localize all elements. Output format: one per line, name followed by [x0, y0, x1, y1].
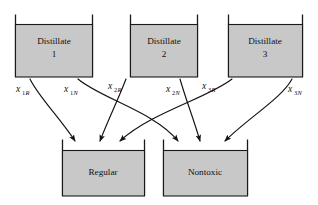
tank-distillate-3: Distillate 3: [229, 15, 303, 78]
distillate-blending-diagram: Distillate 1 Distillate 2 Distillate 3: [0, 0, 318, 205]
flow-label-3R-base: x: [201, 80, 207, 91]
diagram-canvas: Distillate 1 Distillate 2 Distillate 3: [0, 0, 318, 205]
flow-label-2N: x 2 N: [165, 83, 181, 96]
flow-label-2R-base: x: [107, 80, 113, 91]
flow-path-2R: [100, 79, 126, 141]
tank-nontoxic: Nontoxic: [164, 140, 248, 197]
flow-path-1N: [78, 79, 178, 141]
tank-nontoxic-label: Nontoxic: [188, 167, 222, 177]
tank-distillate-2-label-line2: 2: [162, 49, 167, 59]
flow-label-2R-sub-letter: R: [117, 86, 122, 93]
flow-label-3N-base: x: [287, 83, 293, 94]
tank-distillate-2: Distillate 2: [131, 15, 198, 78]
flow-label-2N-base: x: [165, 83, 171, 94]
tank-distillate-1: Distillate 1: [16, 15, 93, 78]
flow-label-1R-sub-letter: R: [25, 89, 30, 96]
flow-label-1R: x 1 R: [15, 83, 30, 96]
flow-label-3N: x 3 N: [287, 83, 303, 96]
tank-distillate-3-label-line2: 3: [263, 49, 268, 59]
flow-label-3R-sub-letter: R: [211, 86, 216, 93]
flow-path-3N: [225, 79, 292, 141]
flow-label-2N-sub-letter: N: [175, 89, 181, 96]
flow-label-1N-base: x: [63, 83, 69, 94]
flow-label-3R: x 3 R: [201, 80, 216, 93]
tank-regular: Regular: [63, 140, 145, 197]
flow-label-1R-base: x: [15, 83, 21, 94]
tank-distillate-3-label-line1: Distillate: [248, 36, 282, 46]
flow-label-3N-sub-letter: N: [297, 89, 303, 96]
tank-regular-label: Regular: [88, 167, 117, 177]
flow-label-1N: x 1 N: [63, 83, 79, 96]
tank-distillate-2-label-line1: Distillate: [147, 36, 181, 46]
tank-distillate-1-label-line1: Distillate: [37, 36, 71, 46]
tank-distillate-1-label-line2: 1: [52, 49, 57, 59]
flow-label-1N-sub-letter: N: [73, 89, 79, 96]
flow-path-2N: [180, 79, 200, 141]
flow-label-2R: x 2 R: [107, 80, 122, 93]
